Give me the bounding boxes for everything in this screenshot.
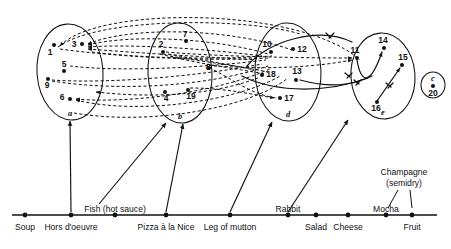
cluster-label-b: b xyxy=(178,111,182,121)
axis-tick-dot-3[interactable] xyxy=(164,213,169,218)
axis-tick-label-9: Fruit xyxy=(403,222,421,232)
node-label-19: 19 xyxy=(186,91,196,101)
axis-tick-dot-0[interactable] xyxy=(23,213,28,218)
node-label-6: 6 xyxy=(60,92,65,102)
axis-tick-label-3: Pizza à la Nice xyxy=(138,222,195,232)
node-label-5a: 5 xyxy=(62,59,67,69)
axis-tick-label-5: Rabbit xyxy=(276,204,301,214)
node-label-4: 4 xyxy=(164,93,169,103)
node-dot-2 xyxy=(161,50,165,54)
node-dot-14 xyxy=(382,46,386,50)
axis-tick-label-1: Hors d'oeuvre xyxy=(44,222,97,232)
axis-tick-dot-9[interactable] xyxy=(410,213,415,218)
axis-connector-5 xyxy=(288,120,348,212)
node-dot-1 xyxy=(52,43,56,47)
node-dot-12 xyxy=(291,47,295,51)
node-label-14: 14 xyxy=(378,35,388,45)
axis-tick-dot-4[interactable] xyxy=(228,213,233,218)
axis-tick-dot-6[interactable] xyxy=(314,213,319,218)
axis-tick-label-4: Leg of mutton xyxy=(204,222,257,232)
cluster-label-c: c xyxy=(431,73,435,83)
node-label-8: 8 xyxy=(206,62,211,72)
callout-label-0: Champagne xyxy=(381,167,428,177)
node-label-18: 18 xyxy=(266,69,276,79)
node-dot-11 xyxy=(355,56,359,60)
axis-tick-label-2: Fish (hot sauce) xyxy=(84,204,146,214)
axis-connector-2 xyxy=(99,123,166,204)
axis-tick-label-0: Soup xyxy=(15,222,35,232)
node-label-1: 1 xyxy=(48,47,53,57)
axis-connector-3 xyxy=(166,124,183,212)
node-label-17: 17 xyxy=(284,93,294,103)
axis-tick-dot-7[interactable] xyxy=(346,213,351,218)
menu-sequence-figure: abdec 1359672841910121813171114151620 So… xyxy=(0,0,451,249)
node-dot-18 xyxy=(260,73,264,77)
node-label-3: 3 xyxy=(72,39,77,49)
callout-leader-1 xyxy=(410,190,412,208)
cluster-label-a: a xyxy=(68,108,73,118)
node-label-20: 20 xyxy=(428,88,438,98)
axis-group: SoupHors d'oeuvreFish (hot sauce)Pizza à… xyxy=(12,120,437,232)
node-label-10: 10 xyxy=(262,39,272,49)
cluster-label-e: e xyxy=(381,107,385,117)
dashed-edge xyxy=(88,49,256,60)
axis-tick-label-7: Cheese xyxy=(333,222,363,232)
node-dot-13 xyxy=(294,78,298,82)
node-dot-3 xyxy=(80,42,84,46)
node-dot-10 xyxy=(269,50,273,54)
node-label-2: 2 xyxy=(159,39,164,49)
node-label-9: 9 xyxy=(45,80,50,90)
solid-edge xyxy=(242,76,368,89)
axis-tick-label-6: Salad xyxy=(305,222,327,232)
node-label-15: 15 xyxy=(398,52,408,62)
cluster-label-d: d xyxy=(286,109,291,119)
node-dot-15 xyxy=(400,63,404,67)
callout-label-1: (semidry) xyxy=(386,178,422,188)
node-dot-5a xyxy=(62,69,66,73)
node-label-12: 12 xyxy=(297,44,307,54)
solid-edge xyxy=(357,52,382,78)
node-label-11: 11 xyxy=(351,45,360,55)
axis-tick-label-8: Mocha xyxy=(373,204,399,214)
node-label-7: 7 xyxy=(183,29,188,39)
axis-tick-dot-1[interactable] xyxy=(69,213,74,218)
axis-connector-1 xyxy=(70,121,71,212)
node-dot-17 xyxy=(278,96,282,100)
node-label-13: 13 xyxy=(292,66,302,76)
node-label-16: 16 xyxy=(371,103,381,113)
node-dot-6 xyxy=(68,97,72,101)
axis-connector-4 xyxy=(230,122,272,212)
diagram-canvas: abdec 1359672841910121813171114151620 So… xyxy=(0,0,451,249)
dashed-edge xyxy=(76,68,272,100)
node-dot-7 xyxy=(184,39,188,43)
